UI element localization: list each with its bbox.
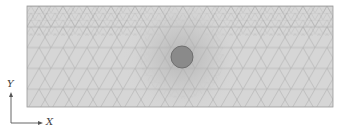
x-axis-label: X (46, 116, 53, 127)
circular-inclusion (171, 46, 193, 68)
y-axis-label: Y (7, 78, 14, 89)
